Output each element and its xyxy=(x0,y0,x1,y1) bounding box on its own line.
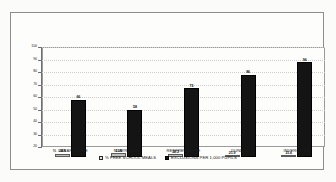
y-axis-label: 30 xyxy=(33,133,37,137)
gridline xyxy=(42,47,325,48)
category-label: RENFREWSHIRE xyxy=(167,149,201,153)
bar-exclusions[interactable]: 86 xyxy=(241,75,256,158)
chart-figure-frame: 2030405060708090100 22.86622.95822.27521… xyxy=(10,12,324,170)
bar-exclusions[interactable]: 96 xyxy=(297,62,312,157)
bar-group: 22.275 xyxy=(155,57,212,157)
legend-label: EXCLUSIONS PER 1,000 PUPILS xyxy=(171,156,237,160)
bar-group: 21.696 xyxy=(268,57,325,157)
y-tick xyxy=(38,47,42,48)
plot-area: 2030405060708090100 22.86622.95822.27521… xyxy=(42,47,325,157)
y-axis-label: 90 xyxy=(33,58,37,62)
bar-value-label: 66 xyxy=(76,96,80,100)
bar-group: 22.958 xyxy=(99,57,156,157)
legend-label: % FREE SCHOOL MEALS xyxy=(105,156,156,160)
y-axis-label: 20 xyxy=(33,145,37,149)
legend-item[interactable]: % FREE SCHOOL MEALS xyxy=(99,156,156,160)
y-axis-label: 40 xyxy=(33,120,37,124)
bar-group: 21.986 xyxy=(212,57,269,157)
category-label: DUNDEE xyxy=(231,149,249,153)
bar-value-label: 96 xyxy=(303,59,307,63)
bar-group: 22.866 xyxy=(42,57,99,157)
bar-exclusions[interactable]: 75 xyxy=(184,88,199,157)
y-axis-label: 60 xyxy=(33,95,37,99)
page-background: 2030405060708090100 22.86622.95822.27521… xyxy=(0,0,336,182)
y-axis-label: 100 xyxy=(31,45,37,49)
bar-value-label: 86 xyxy=(246,71,250,75)
category-label: INVERCLYDE xyxy=(284,149,310,153)
y-axis-label: 50 xyxy=(33,108,37,112)
legend-item[interactable]: EXCLUSIONS PER 1,000 PUPILS xyxy=(165,156,237,160)
bar-value-label: 75 xyxy=(190,85,194,89)
category-label: N. LANARKSHIRE xyxy=(53,149,88,153)
category-label: N. AYRSHIRE xyxy=(114,149,140,153)
y-axis-label: 70 xyxy=(33,83,37,87)
legend-swatch-icon xyxy=(165,156,169,160)
y-axis-label: 80 xyxy=(33,70,37,74)
chart-legend: % FREE SCHOOL MEALSEXCLUSIONS PER 1,000 … xyxy=(0,156,336,160)
legend-swatch-icon xyxy=(99,156,103,160)
bar-value-label: 58 xyxy=(133,106,137,110)
